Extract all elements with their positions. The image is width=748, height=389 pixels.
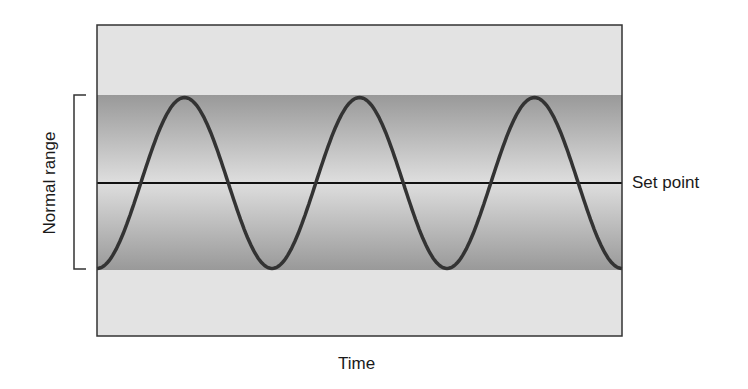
set-point-label: Set point <box>632 173 699 193</box>
homeostasis-diagram <box>0 0 748 389</box>
normal-range-label: Normal range <box>40 132 60 235</box>
x-axis-label: Time <box>338 354 375 374</box>
normal-range-bracket <box>74 95 86 269</box>
